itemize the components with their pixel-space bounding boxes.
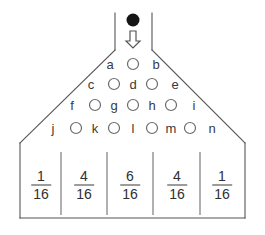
fraction-numerator: 1	[211, 169, 233, 185]
peg-p3	[147, 79, 158, 90]
down-arrow-icon	[126, 31, 140, 48]
peg-p1	[128, 59, 139, 70]
fraction-numerator: 6	[119, 169, 141, 185]
fraction-denominator: 16	[166, 186, 188, 202]
bin-probability-bin-2: 416	[73, 169, 95, 202]
bin-probability-bin-4: 416	[166, 169, 188, 202]
fraction-denominator: 16	[30, 186, 52, 202]
peg-label-f: f	[65, 99, 79, 112]
peg-p2	[109, 79, 120, 90]
fraction-denominator: 16	[119, 186, 141, 202]
peg-p10	[185, 123, 196, 134]
fraction-denominator: 16	[73, 186, 95, 202]
peg-label-h: h	[145, 99, 159, 112]
peg-label-c: c	[84, 78, 98, 91]
peg-label-j: j	[46, 122, 60, 135]
bin-probability-bin-5: 116	[211, 169, 233, 202]
peg-label-g: g	[107, 99, 121, 112]
peg-label-n: n	[205, 122, 219, 135]
fraction-numerator: 4	[73, 169, 95, 185]
peg-label-e: e	[168, 78, 182, 91]
down-arrow-shape	[126, 31, 140, 48]
bin-probability-bin-3: 616	[119, 169, 141, 202]
fraction-numerator: 1	[30, 169, 52, 185]
peg-label-b: b	[149, 58, 163, 71]
peg-p6	[166, 100, 177, 111]
peg-p8	[109, 123, 120, 134]
peg-label-i: i	[187, 99, 201, 112]
peg-label-d: d	[126, 78, 140, 91]
ball-icon	[127, 14, 140, 27]
peg-p4	[90, 100, 101, 111]
fraction-denominator: 16	[211, 186, 233, 202]
peg-label-k: k	[88, 122, 102, 135]
peg-p9	[147, 123, 158, 134]
galton-board-diagram: abcdefghijklmn 116416616416116	[0, 0, 265, 235]
peg-label-a: a	[103, 58, 117, 71]
peg-label-l: l	[126, 122, 140, 135]
peg-p5	[128, 100, 139, 111]
peg-p7	[71, 123, 82, 134]
peg-label-m: m	[164, 122, 178, 135]
bin-probability-bin-1: 116	[30, 169, 52, 202]
fraction-numerator: 4	[166, 169, 188, 185]
